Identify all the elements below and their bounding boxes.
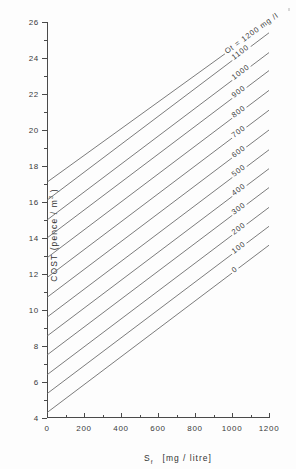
curve-group [47,22,269,418]
y-tick-label-12: 12 [29,270,39,279]
x-tick-label-600: 600 [150,424,165,433]
x-tick-label-400: 400 [113,424,128,433]
y-tick-label-10: 10 [29,306,39,315]
x-tick-label-800: 800 [187,424,202,433]
y-tick-label-4: 4 [34,414,39,423]
y-tick-label-22: 22 [29,90,39,99]
x-axis-title-subscript: f [151,458,153,465]
x-axis-title-unit: [mg / litre] [163,453,212,463]
x-tick-label-1000: 1000 [222,424,243,433]
y-tick-label-26: 26 [29,18,39,27]
corner-speck [288,8,290,11]
plot-area: 468101214161820222426 020040060080010001… [47,22,269,418]
y-tick-label-6: 6 [34,378,39,387]
x-tick-1200 [269,413,270,418]
y-tick-label-18: 18 [29,162,39,171]
y-tick-4 [42,418,47,419]
x-tick-label-200: 200 [76,424,91,433]
x-tick-label-0: 0 [44,424,49,433]
y-tick-label-20: 20 [29,126,39,135]
chart-figure: COST (pence / m3 ) 468101214161820222426… [0,0,296,469]
x-tick-label-1200: 1200 [259,424,280,433]
y-tick-label-14: 14 [29,234,39,243]
y-tick-label-16: 16 [29,198,39,207]
y-tick-label-8: 8 [34,342,39,351]
y-tick-label-24: 24 [29,54,39,63]
x-axis-title: Sf [mg / litre] [0,453,296,465]
x-axis-title-symbol: S [144,453,151,463]
